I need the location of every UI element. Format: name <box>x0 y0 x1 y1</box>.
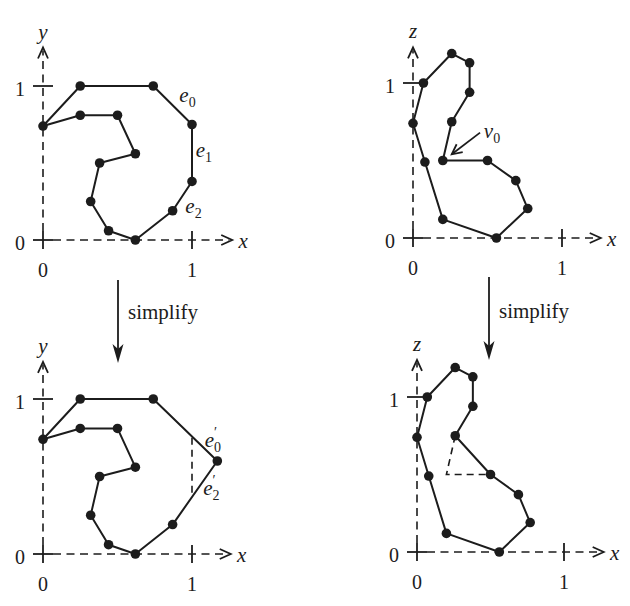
vertical-axis-label: z <box>412 332 421 356</box>
edge-label-subscript: 0 <box>214 440 221 455</box>
vertical-tick-label: 1 <box>385 75 395 97</box>
vertex-dot <box>38 121 48 131</box>
vertex-dot <box>104 540 114 550</box>
vertex-dot <box>420 157 430 167</box>
vertex-dot <box>492 233 502 243</box>
vertex-dot <box>187 177 197 187</box>
edge-label-base: e <box>196 138 205 162</box>
horizontal-axis-label: x <box>609 541 620 565</box>
polygon-outline <box>43 399 217 554</box>
vertical-tick-label: 1 <box>389 389 399 411</box>
vertex-dot <box>465 58 475 68</box>
axes: 0101xz <box>385 19 617 279</box>
horizontal-tick-label: 0 <box>38 573 48 595</box>
vertical-axis-label: y <box>36 334 48 358</box>
vertical-tick-label: 1 <box>15 78 25 100</box>
edge-label: e1 <box>196 138 212 165</box>
horizontal-tick-label: 1 <box>559 571 569 593</box>
vertex-dot <box>148 81 158 91</box>
vertex-dot <box>187 120 197 130</box>
horizontal-tick-label: 0 <box>412 571 422 593</box>
vertex-dot <box>486 470 496 480</box>
simplify-step-left: simplify <box>113 280 199 363</box>
vertex-dot <box>523 204 533 214</box>
edge-label: e0′ <box>205 425 221 455</box>
vertex-dot <box>213 456 223 466</box>
panel-bottom-left-xy: 0101xye0′e2′ <box>15 334 247 595</box>
figure: 0101xye0e1e2 0101xzv0 0101xye0′e2′ 0101x… <box>0 0 630 606</box>
vertex-dot <box>511 176 521 186</box>
vertex-dot <box>75 424 85 434</box>
vertical-tick-label: 0 <box>385 230 395 252</box>
edge-label-prime: ′ <box>214 425 217 440</box>
vertex-dot <box>450 431 460 441</box>
vertex-label: v0 <box>484 119 500 146</box>
vertex-dot <box>514 490 524 500</box>
edge-label: e0 <box>179 83 195 110</box>
vertical-tick-label: 0 <box>389 544 399 566</box>
vertex-dot <box>495 547 505 557</box>
vertical-axis-label: y <box>36 20 48 44</box>
vertex-dot <box>412 433 422 443</box>
vertex-dot <box>148 394 158 404</box>
vertical-axis-label: z <box>408 19 417 43</box>
vertex-dot <box>75 81 85 91</box>
edge-label-subscript: 1 <box>205 150 212 165</box>
vertex-dot <box>447 117 457 127</box>
vertex-dot <box>113 424 123 434</box>
polygon-outline <box>43 86 192 240</box>
vertex-dot <box>525 518 535 528</box>
vertex-label-subscript: 0 <box>493 131 500 146</box>
polygon-outline <box>417 368 530 552</box>
simplify-step-right: simplify <box>484 277 570 360</box>
panel-top-right-xz: 0101xzv0 <box>385 19 617 279</box>
edge-label: e2′ <box>203 473 219 503</box>
vertex-dot <box>419 78 429 88</box>
figure-canvas: 0101xye0e1e2 0101xzv0 0101xye0′e2′ 0101x… <box>0 0 630 606</box>
vertex-dot <box>75 394 85 404</box>
vertex-dot <box>422 392 432 402</box>
vertex-dot <box>483 156 493 166</box>
vertical-tick-label: 0 <box>15 546 25 568</box>
horizontal-tick-label: 0 <box>408 257 418 279</box>
vertex-dot <box>75 110 85 120</box>
edge-label-base: e <box>179 83 188 107</box>
vertex-dot <box>95 472 105 482</box>
vertex-dot <box>465 88 475 98</box>
edge-label-base: e <box>203 476 212 500</box>
edge-label-subscript: 2 <box>195 206 202 221</box>
horizontal-axis-label: x <box>606 227 617 251</box>
horizontal-axis-label: x <box>238 229 249 253</box>
vertex-dot <box>131 149 141 159</box>
panel-top-left-xy: 0101xye0e1e2 <box>15 20 249 282</box>
vertex-dot <box>468 402 478 412</box>
vertex-dot <box>131 462 141 472</box>
vertex-dot <box>447 49 457 59</box>
vertex-dot <box>131 549 141 559</box>
vertex-dot <box>86 510 96 520</box>
step-label: simplify <box>499 299 570 323</box>
panel-bottom-right-xz: 0101xz <box>389 332 620 593</box>
vertex-dot <box>438 156 448 166</box>
horizontal-tick-label: 1 <box>557 257 567 279</box>
vertex-dot <box>38 435 48 445</box>
horizontal-axis-label: x <box>236 543 247 567</box>
vertex-dot <box>438 215 448 225</box>
vertex-dot <box>113 110 123 120</box>
vertex-dot <box>450 363 460 373</box>
vertical-tick-label: 0 <box>15 232 25 254</box>
vertex-dot <box>131 235 141 245</box>
edge-label-base: e <box>185 194 194 218</box>
vertical-tick-label: 1 <box>15 391 25 413</box>
vertex-dot <box>86 197 96 207</box>
callout-arrow-line <box>452 133 480 155</box>
horizontal-tick-label: 1 <box>187 573 197 595</box>
vertex-dot <box>408 119 418 129</box>
edge-label-base: e <box>205 428 214 452</box>
vertex-dot <box>442 529 452 539</box>
edge-label-subscript: 0 <box>189 95 196 110</box>
edge-label-prime: ′ <box>213 473 216 488</box>
vertex-dot <box>95 158 105 168</box>
polygon-outline <box>413 54 528 238</box>
vertex-dot <box>104 226 114 236</box>
